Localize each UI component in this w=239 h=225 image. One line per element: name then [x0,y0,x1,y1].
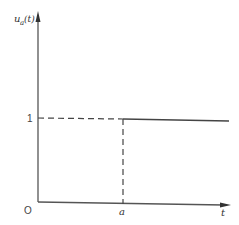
horizontal-guide [38,118,123,119]
step-function-diagram: u a (t) 1 O a t [0,0,239,225]
x-tick-label-a: a [119,206,125,217]
origin-label: O [24,205,32,216]
x-axis [38,202,224,205]
y-axis-arrow-icon [36,11,41,22]
series-line-step [123,119,229,121]
y-axis-label-arg: (t) [24,14,35,24]
x-axis-label: t [221,207,226,218]
y-tick-label-1: 1 [27,113,33,124]
